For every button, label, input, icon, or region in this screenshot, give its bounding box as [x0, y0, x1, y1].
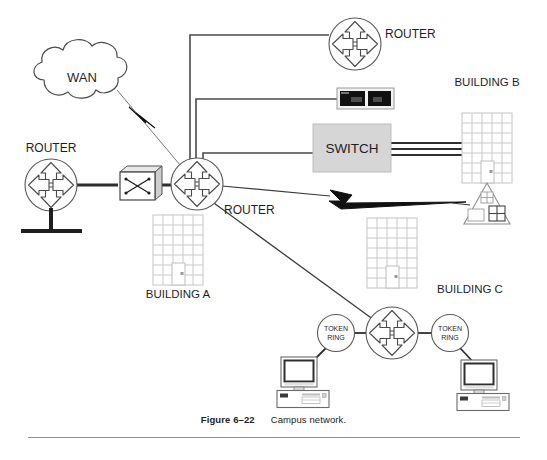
building-c-label: BUILDING C — [437, 283, 503, 295]
building-b-icon — [462, 113, 512, 183]
router-center-label: ROUTER — [224, 203, 275, 217]
building-a-label: BUILDING A — [146, 288, 211, 300]
router-left-icon — [25, 159, 77, 211]
workstation-right-icon — [457, 360, 509, 411]
lan-bus-left — [21, 208, 82, 231]
figure-caption-text: Campus network. — [271, 414, 346, 425]
wan-label: WAN — [67, 70, 97, 85]
token-ring-left-label-line2: RING — [327, 334, 345, 341]
switch-label: SWITCH — [325, 141, 378, 156]
wan-cloud-icon — [34, 40, 127, 99]
token-ring-right-label-line1: TOKEN — [438, 325, 462, 332]
remote-site-icon — [464, 183, 510, 224]
figure-caption: Figure 6–22Campus network. — [0, 414, 547, 425]
building-b-label: BUILDING B — [454, 76, 520, 88]
building-c-icon — [367, 218, 417, 288]
token-ring-left-icon — [318, 315, 355, 352]
link-switch-to-building-b — [391, 143, 462, 155]
token-ring-left-label-line1: TOKEN — [324, 325, 348, 332]
token-ring-right-icon — [432, 315, 469, 352]
token-ring-right-label-line2: RING — [441, 334, 459, 341]
figure-number: Figure 6–22 — [201, 414, 255, 425]
modem-device-icon — [337, 88, 394, 109]
caption-divider — [28, 437, 520, 438]
router-center-icon — [171, 158, 223, 210]
router-top-icon — [329, 18, 381, 70]
workstation-left-icon — [277, 357, 329, 408]
building-a-icon — [153, 215, 203, 285]
figure-root: WAN ROUTER ROUTER — [0, 0, 547, 460]
campus-network-diagram: WAN ROUTER ROUTER — [0, 0, 547, 460]
link-router-center-to-router-top — [190, 35, 329, 180]
router-top-label: ROUTER — [385, 27, 436, 41]
router-left-label: ROUTER — [26, 141, 77, 155]
crossconnect-box-icon — [120, 166, 162, 200]
link-wan-to-router-center — [117, 90, 186, 172]
router-bottom-icon — [366, 307, 418, 359]
